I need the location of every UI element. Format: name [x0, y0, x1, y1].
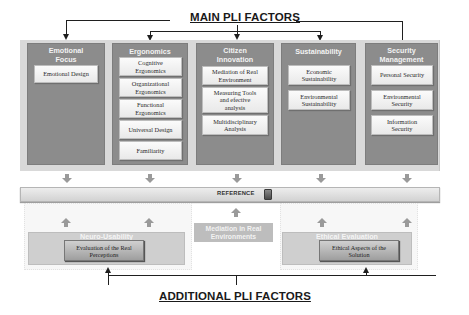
arrow-up-icon — [402, 218, 412, 227]
connector-line — [237, 31, 320, 32]
factor-item: Familiarity — [119, 141, 182, 160]
factor-column-emotional-focus: Emotional Focus Emotional Design — [27, 43, 105, 165]
arrow-down-icon — [402, 174, 412, 183]
main-pli-factors-title: MAIN PLI FACTORS — [190, 11, 300, 23]
factor-item: Personal Security — [371, 65, 433, 85]
arrow-down-icon — [145, 174, 155, 183]
factor-item: Organizational Ergonomics — [119, 78, 182, 97]
arrow-up-icon — [144, 218, 154, 227]
additional-factor-mediation: Mediation in Real Environments — [194, 223, 273, 242]
connector-line — [66, 20, 170, 21]
connector-line — [66, 20, 67, 35]
reference-label: REFERENCE — [217, 190, 255, 196]
additional-factor-item: Ethical Aspects of the Solution — [319, 240, 399, 261]
arrow-up-icon — [317, 218, 327, 227]
factor-column-ergonomics: Ergonomics Cognitive Ergonomics Organiza… — [112, 43, 188, 165]
factor-item: Multidisciplinary Analysis — [202, 115, 268, 135]
arrow-up-icon — [363, 267, 369, 273]
connector-line — [402, 21, 403, 41]
factor-item: Cognitive Ergonomics — [119, 57, 182, 76]
arrow-down-icon — [232, 174, 242, 183]
factor-item: Functional Ergonomics — [119, 99, 182, 118]
connector-line — [236, 275, 237, 285]
factor-heading: Citizen Innovation — [196, 47, 274, 64]
additional-factor-neuro-usability: Neuro-Usability Evaluation of the Real P… — [28, 232, 185, 265]
factor-item: Environmental Security — [371, 90, 433, 110]
factor-heading: Ergonomics — [112, 48, 188, 57]
book-icon — [264, 189, 272, 200]
arrow-down-icon — [62, 174, 72, 183]
additional-factor-ethical-evaluation: Ethical Evaluation Ethical Aspects of th… — [282, 232, 412, 265]
factor-heading: Emotional Focus — [27, 47, 105, 64]
factor-item: Environmental Sustainability — [288, 90, 350, 110]
additional-factor-item: Evaluation of the Real Perceptions — [64, 240, 144, 261]
arrow-down-icon — [316, 174, 326, 183]
factor-heading: Security Management — [365, 47, 438, 64]
connector-line — [296, 21, 402, 22]
factor-item: Economic Sustainability — [288, 65, 350, 85]
factor-item: Measuring Tools and efective analysis — [202, 87, 268, 113]
factor-column-citizen-innovation: Citizen Innovation Mediation of Real Env… — [196, 43, 274, 165]
factor-column-sustainability: Sustainability Economic Sustainability E… — [281, 43, 356, 165]
factor-item: Mediation of Real Environment — [202, 66, 268, 85]
arrow-up-icon — [61, 218, 71, 227]
connector-line — [108, 275, 436, 276]
factor-item: Universal Design — [119, 120, 182, 139]
factor-item: Information Security — [371, 115, 433, 135]
connector-line — [150, 31, 240, 32]
factor-heading: Sustainability — [281, 48, 356, 57]
connector-line — [108, 272, 109, 276]
arrow-up-icon — [231, 208, 241, 217]
factor-item: Emotional Design — [34, 65, 98, 83]
additional-pli-factors-title: ADDITIONAL PLI FACTORS — [159, 290, 311, 302]
factor-column-security-management: Security Management Personal Security En… — [365, 43, 438, 165]
